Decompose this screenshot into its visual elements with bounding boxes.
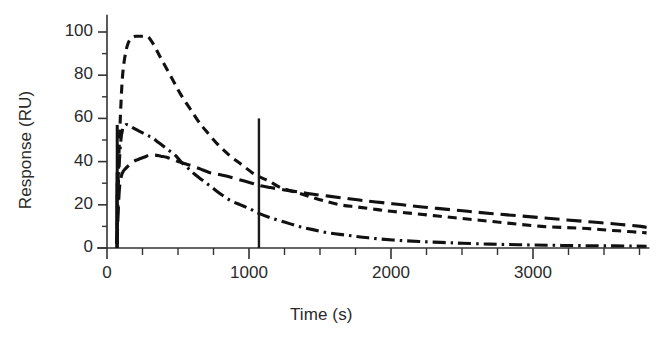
x-tick-label: 1000: [199, 263, 299, 283]
series-group: [117, 36, 647, 248]
x-tick-label: 3000: [483, 263, 583, 283]
x-tick-label: 2000: [341, 263, 441, 283]
y-tick-label: 80: [3, 64, 93, 84]
x-axis-title: Time (s): [290, 305, 353, 325]
y-tick-label: 0: [3, 237, 93, 257]
series-curve-mid: [117, 124, 647, 246]
chart-canvas: [0, 0, 669, 344]
x-tick-label: 0: [57, 263, 157, 283]
spr-sensorgram-figure: Response (RU) Time (s) 02040608010001000…: [0, 0, 669, 344]
y-tick-label: 60: [3, 107, 93, 127]
axes-group: [97, 15, 649, 259]
series-curve-high: [117, 36, 647, 244]
y-tick-label: 20: [3, 194, 93, 214]
y-tick-label: 40: [3, 151, 93, 171]
series-curve-low: [117, 155, 647, 244]
y-tick-label: 100: [3, 21, 93, 41]
